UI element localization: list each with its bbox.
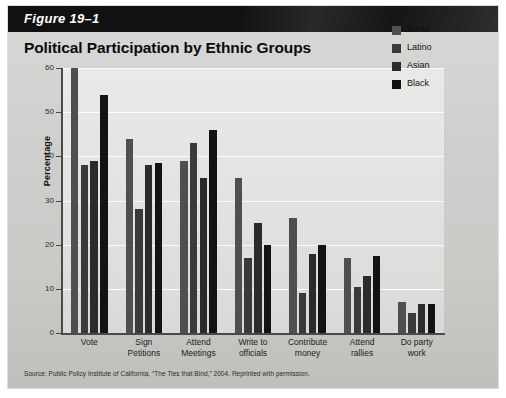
x-axis-label: Vote — [62, 337, 117, 348]
y-axis-title: Percentage — [42, 116, 52, 206]
legend-swatch-icon — [392, 26, 401, 35]
bar — [235, 178, 243, 333]
figure-root: Figure 19–1 Political Participation by E… — [0, 0, 506, 398]
bar — [100, 95, 108, 334]
x-axis-label: AttendMeetings — [171, 337, 226, 359]
bar — [254, 223, 262, 333]
y-tick: 10 — [28, 284, 54, 294]
x-axis-labels: VoteSignPetitionsAttendMeetingsWrite too… — [62, 337, 444, 371]
bar — [318, 245, 326, 333]
legend-item: White — [392, 24, 478, 39]
legend-swatch-icon — [392, 80, 401, 89]
figure-number: Figure 19–1 — [24, 11, 100, 26]
bar — [81, 165, 89, 333]
bar — [71, 68, 79, 333]
bar-group — [226, 68, 281, 333]
bar — [363, 276, 371, 333]
x-axis-line — [61, 333, 445, 335]
figure-card: Figure 19–1 Political Participation by E… — [8, 6, 498, 388]
y-tick-label: 20 — [32, 240, 54, 249]
legend: WhiteLatinoAsianBlack — [392, 24, 478, 96]
bar — [126, 139, 134, 333]
bar — [408, 313, 416, 333]
bar-group — [117, 68, 172, 333]
bars-layer — [62, 68, 444, 333]
bar — [398, 302, 406, 333]
bar — [264, 245, 272, 333]
bar — [190, 143, 198, 333]
y-tick-label: 50 — [32, 107, 54, 116]
legend-swatch-icon — [392, 62, 401, 71]
bar-group — [280, 68, 335, 333]
bar — [309, 254, 317, 334]
legend-label: Asian — [407, 60, 430, 70]
bar-group — [389, 68, 444, 333]
chart-title: Political Participation by Ethnic Groups — [24, 39, 311, 57]
bar — [155, 163, 163, 333]
x-axis-label: Contributemoney — [280, 337, 335, 359]
source-note: Source: Public Policy Institute of Calif… — [24, 370, 484, 377]
x-axis-label: Write toofficials — [226, 337, 281, 359]
legend-label: White — [407, 24, 430, 34]
legend-item: Latino — [392, 42, 478, 57]
y-tick-label: 0 — [32, 328, 54, 337]
x-axis-label: Attendrallies — [335, 337, 390, 359]
y-tick: 0 — [28, 328, 54, 338]
bar — [200, 178, 208, 333]
bar — [135, 209, 143, 333]
y-tick: 60 — [28, 63, 54, 73]
legend-item: Black — [392, 78, 478, 93]
bar — [180, 161, 188, 333]
legend-swatch-icon — [392, 44, 401, 53]
y-tick: 20 — [28, 240, 54, 250]
bar — [90, 161, 98, 333]
bar — [289, 218, 297, 333]
bar-group — [335, 68, 390, 333]
bar — [373, 256, 381, 333]
bar — [418, 304, 426, 333]
bar — [428, 304, 436, 333]
bar — [244, 258, 252, 333]
x-axis-label: SignPetitions — [117, 337, 172, 359]
bar — [209, 130, 217, 333]
legend-item: Asian — [392, 60, 478, 75]
y-tick-label: 10 — [32, 284, 54, 293]
bar — [354, 287, 362, 333]
bar-group — [171, 68, 226, 333]
bar-group — [62, 68, 117, 333]
legend-label: Latino — [407, 42, 432, 52]
bar — [145, 165, 153, 333]
x-axis-label: Do partywork — [389, 337, 444, 359]
bar — [344, 258, 352, 333]
bar — [299, 293, 307, 333]
y-tick-label: 60 — [32, 63, 54, 72]
legend-label: Black — [407, 78, 429, 88]
